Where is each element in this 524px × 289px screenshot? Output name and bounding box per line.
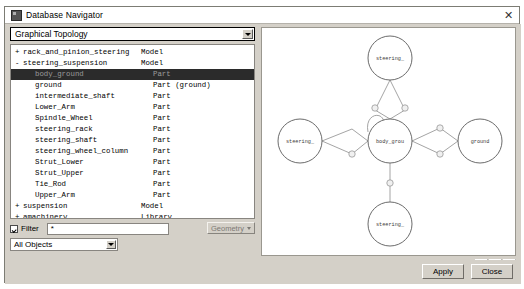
tree-row-type: Part [153, 146, 171, 157]
tree-row[interactable]: Upper_ArmPart [11, 190, 254, 201]
tree-row-type: Part [153, 168, 171, 179]
tree-row-type: Part [153, 102, 171, 113]
tree-row[interactable]: -steering_suspensionModel [11, 58, 254, 69]
tree-row[interactable]: +amachineryLibrary [11, 212, 254, 219]
app-icon [11, 10, 22, 21]
tree-row-name: suspension [23, 201, 141, 212]
edge-left-upper [322, 129, 368, 141]
edge-top-left [375, 80, 390, 119]
expand-icon[interactable]: + [15, 201, 23, 212]
tree-row-type: Part [153, 179, 171, 190]
tree-row[interactable]: steering_wheel_columnPart [11, 146, 254, 157]
window-title: Database Navigator [26, 10, 103, 20]
tree-row-name: steering_rack [35, 124, 153, 135]
tree-row-type: Model [141, 201, 163, 212]
objects-select[interactable]: All Objects [10, 238, 118, 251]
dialog-footer: Apply Close [5, 260, 521, 284]
tree-row-name: Strut_Upper [35, 168, 153, 179]
view-mode-select[interactable]: Graphical Topology [10, 27, 255, 41]
tree-row[interactable]: Tie_RodPart [11, 179, 254, 190]
filter-row: Filter * Geometry [10, 222, 255, 235]
close-button[interactable]: Close [471, 264, 513, 279]
apply-button[interactable]: Apply [422, 264, 464, 279]
tree-row[interactable]: Spindle_WheelPart [11, 113, 254, 124]
edge-left-lower [322, 141, 368, 154]
tree-row[interactable]: body_groundPart [11, 69, 254, 80]
graph-node-label: steering_ [286, 139, 315, 145]
graph-nodes: steering_steering_body_grougroundsteerin… [278, 36, 502, 246]
graphical-topology-canvas[interactable]: steering_steering_body_grougroundsteerin… [261, 27, 516, 256]
filter-input[interactable]: * [47, 223, 169, 235]
filter-label: Filter [21, 224, 39, 233]
close-icon[interactable]: ✕ [502, 9, 514, 21]
tree-row-type: Part [153, 135, 171, 146]
tree-row[interactable]: +suspensionModel [11, 201, 254, 212]
filter-type-select[interactable]: Geometry [207, 222, 255, 234]
graph-node[interactable]: body_grou [368, 119, 412, 163]
tree-row-type: Part [153, 91, 171, 102]
browser-pane: Graphical Topology +rack_and_pinion_stee… [10, 27, 255, 256]
graph-node[interactable]: steering_ [278, 119, 322, 163]
edge-marker [402, 105, 408, 111]
tree-row-name: steering_wheel_column [35, 146, 153, 157]
tree-row-name: Lower_Arm [35, 102, 153, 113]
edge-top-right [390, 80, 405, 119]
edge-marker [437, 125, 443, 131]
tree-row-type: Part [153, 113, 171, 124]
graph-node[interactable]: steering_ [368, 202, 412, 246]
tree-row[interactable]: steering_shaftPart [11, 135, 254, 146]
topology-graph: steering_steering_body_grougroundsteerin… [262, 28, 515, 255]
database-navigator-dialog: Database Navigator ✕ Graphical Topology … [4, 6, 520, 283]
tree-row-type: Model [141, 58, 163, 69]
objects-select-value: All Objects [14, 240, 52, 249]
tree-row-name: Spindle_Wheel [35, 113, 153, 124]
tree-row-name: steering_suspension [23, 58, 141, 69]
object-tree[interactable]: +rack_and_pinion_steeringModel-steering_… [10, 44, 255, 219]
edge-marker [387, 180, 393, 186]
filter-type-value: Geometry [211, 224, 244, 233]
edge-marker [437, 151, 443, 157]
tree-row-name: Tie_Rod [35, 179, 153, 190]
tree-row-type: Part [153, 157, 171, 168]
chevron-down-icon[interactable] [242, 29, 253, 39]
graph-node-label: steering_ [376, 222, 405, 228]
title-bar: Database Navigator ✕ [5, 7, 519, 24]
graph-node-label: steering_ [376, 56, 405, 62]
tree-row-type: Part [153, 69, 171, 80]
tree-row-name: Strut_Lower [35, 157, 153, 168]
tree-row[interactable]: +rack_and_pinion_steeringModel [11, 47, 254, 58]
tree-row[interactable]: Strut_UpperPart [11, 168, 254, 179]
tree-row-name: ground [35, 80, 153, 91]
filter-checkbox[interactable] [10, 225, 18, 233]
tree-row[interactable]: Lower_ArmPart [11, 102, 254, 113]
tree-row-type: Model [141, 47, 163, 58]
tree-row-name: Upper_Arm [35, 190, 153, 201]
caret-glyph [108, 243, 114, 246]
tree-row-type: Part [153, 124, 171, 135]
tree-row[interactable]: steering_rackPart [11, 124, 254, 135]
tree-row[interactable]: Strut_LowerPart [11, 157, 254, 168]
tree-row-name: steering_shaft [35, 135, 153, 146]
expand-icon[interactable]: + [15, 47, 23, 58]
screen-root: Database Navigator ✕ Graphical Topology … [0, 0, 524, 289]
view-mode-value: Graphical Topology [15, 29, 88, 39]
tree-row-type: Part [153, 190, 171, 201]
graph-node-label: ground [471, 139, 490, 145]
edge-marker [349, 151, 355, 157]
tree-row[interactable]: intermediate_shaftPart [11, 91, 254, 102]
tree-row[interactable]: groundPart (ground) [11, 80, 254, 91]
expand-icon[interactable]: + [15, 212, 23, 219]
edge-right-lower [412, 141, 458, 154]
caret-glyph [245, 33, 251, 36]
chevron-down-icon[interactable] [106, 240, 116, 249]
graph-node-label: body_grou [376, 139, 404, 145]
collapse-icon[interactable]: - [15, 58, 23, 69]
tree-row-name: body_ground [35, 69, 153, 80]
edge-marker [372, 105, 378, 111]
object-tree-rows: +rack_and_pinion_steeringModel-steering_… [11, 47, 254, 219]
graph-node[interactable]: steering_ [368, 36, 412, 80]
tree-row-type: Library [141, 212, 172, 219]
graph-node[interactable]: ground [458, 119, 502, 163]
tree-row-name: intermediate_shaft [35, 91, 153, 102]
tree-row-name: rack_and_pinion_steering [23, 47, 141, 58]
